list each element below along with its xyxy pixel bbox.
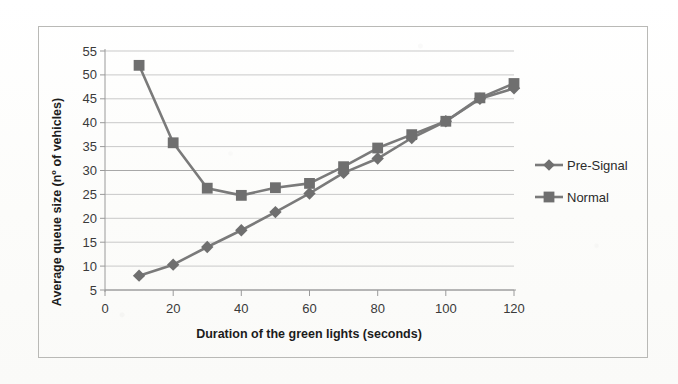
square-marker-icon (236, 190, 247, 201)
x-tick-label: 120 (503, 301, 525, 316)
y-tick-label: 45 (83, 91, 97, 106)
square-marker-icon (304, 178, 315, 189)
y-axis-title: Average queue size (nº of vehicles) (50, 98, 64, 306)
x-axis-title: Duration of the green lights (seconds) (196, 327, 422, 341)
series-line (139, 65, 514, 195)
legend-label: Pre-Signal (567, 158, 628, 173)
legend-entry-normal[interactable]: Normal (535, 190, 609, 205)
x-tick-label: 40 (234, 301, 248, 316)
chart-canvas: Average queue size (nº of vehicles) 55 5… (39, 27, 647, 357)
square-marker-icon (168, 137, 179, 148)
legend-label: Normal (567, 190, 609, 205)
square-marker-icon (440, 116, 451, 127)
diamond-marker-icon (235, 224, 247, 236)
square-marker-icon (202, 183, 213, 194)
x-tick-label: 60 (302, 301, 316, 316)
square-marker-icon (406, 129, 417, 140)
y-tick-label: 5 (90, 283, 97, 298)
diamond-marker-icon (371, 152, 383, 164)
x-tick-label: 80 (370, 301, 384, 316)
diamond-marker-icon (167, 258, 179, 270)
square-marker-icon (509, 78, 520, 89)
square-marker-icon (372, 143, 383, 154)
x-tick-label: 100 (435, 301, 457, 316)
y-tick-label: 40 (83, 115, 97, 130)
y-tick-labels: 55 50 45 40 35 30 25 20 15 10 5 (83, 44, 97, 298)
chart-legend: Pre-Signal Normal (535, 158, 628, 205)
series-line (139, 88, 514, 275)
square-marker-icon (475, 92, 486, 103)
diamond-marker-icon (543, 159, 555, 171)
x-axis-spine (105, 290, 516, 296)
series-normal (134, 60, 520, 201)
horizontal-gridlines (105, 51, 514, 290)
series-pre-signal (133, 82, 520, 282)
square-marker-icon (338, 161, 349, 172)
x-tick-label: 0 (101, 301, 108, 316)
y-tick-label: 50 (83, 67, 97, 82)
y-tick-label: 20 (83, 211, 97, 226)
diamond-marker-icon (269, 206, 281, 218)
y-axis-spine (100, 49, 105, 292)
y-tick-label: 25 (83, 187, 97, 202)
y-tick-label: 35 (83, 139, 97, 154)
chart-figure: Average queue size (nº of vehicles) 55 5… (0, 0, 678, 384)
square-marker-icon (134, 60, 145, 71)
x-tick-labels: 0 20 40 60 80 100 120 (101, 301, 524, 316)
diamond-marker-icon (303, 187, 315, 199)
square-marker-icon (544, 192, 555, 203)
y-tick-label: 15 (83, 235, 97, 250)
square-marker-icon (270, 182, 281, 193)
y-tick-label: 30 (83, 163, 97, 178)
y-tick-label: 55 (83, 44, 97, 59)
y-tick-label: 10 (83, 259, 97, 274)
chart-frame-border: Average queue size (nº of vehicles) 55 5… (38, 26, 648, 358)
legend-entry-pre-signal[interactable]: Pre-Signal (535, 158, 628, 173)
x-tick-label: 20 (166, 301, 180, 316)
diamond-marker-icon (133, 269, 145, 281)
